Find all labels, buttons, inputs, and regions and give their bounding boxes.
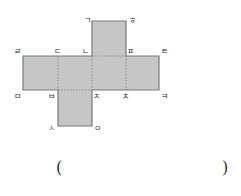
open-paren: ( xyxy=(56,158,62,177)
bottom-face xyxy=(58,90,92,126)
vertex-label-o: ㅇ xyxy=(94,124,101,133)
close-paren: ) xyxy=(222,158,228,177)
vertex-label-b: ㅂ xyxy=(48,92,55,101)
vertex-label-n: ㄴ xyxy=(82,47,89,56)
vertex-label-j: ㅈ xyxy=(93,92,100,101)
vertex-label-g: ㄱ xyxy=(84,16,91,25)
vertex-label-m: ㅁ xyxy=(14,92,21,101)
vertex-label-ch: ㅊ xyxy=(122,92,129,101)
vertex-label-d: ㄷ xyxy=(54,47,61,56)
vertex-label-k: ㅋ xyxy=(161,92,168,101)
vertex-label-h: ㅎ xyxy=(129,16,136,25)
vertex-label-t: ㅌ xyxy=(161,47,168,56)
vertex-label-r: ㄹ xyxy=(14,47,21,56)
vertex-label-s: ㅅ xyxy=(48,124,55,133)
answer-blank[interactable]: ( ) xyxy=(56,158,228,177)
top-face xyxy=(92,21,126,56)
vertex-label-p: ㅍ xyxy=(127,47,134,56)
cube-net-diagram: ㄱ ㅎ ㄹ ㄷ ㄴ ㅍ ㅌ ㅁ ㅂ ㅈ ㅊ ㅋ ㅅ ㅇ ( ) xyxy=(0,0,241,196)
middle-row xyxy=(23,56,159,90)
faces xyxy=(23,21,159,126)
